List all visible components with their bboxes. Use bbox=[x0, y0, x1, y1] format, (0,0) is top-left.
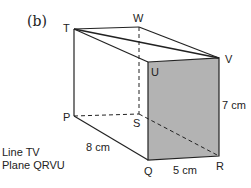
dimension-length: 8 cm bbox=[86, 141, 110, 153]
vertex-p: P bbox=[63, 111, 70, 123]
vertex-q: Q bbox=[144, 165, 153, 177]
vertex-u: U bbox=[151, 66, 159, 78]
part-label: (b) bbox=[27, 13, 47, 29]
note-plane: Plane QRVU bbox=[2, 159, 65, 172]
dimension-height: 7 cm bbox=[222, 99, 246, 111]
vertex-w: W bbox=[133, 12, 144, 24]
line-tv bbox=[74, 29, 219, 58]
vertex-v: V bbox=[225, 53, 233, 65]
edge-tu bbox=[74, 29, 148, 62]
dimension-width: 5 cm bbox=[173, 164, 197, 176]
hidden-edge-ps bbox=[74, 114, 139, 116]
vertex-t: T bbox=[63, 22, 70, 34]
edge-wv bbox=[139, 27, 219, 58]
vertex-s: S bbox=[133, 117, 140, 129]
note-line: Line TV bbox=[2, 146, 40, 159]
vertex-r: R bbox=[216, 160, 224, 172]
edge-tw bbox=[74, 27, 139, 29]
